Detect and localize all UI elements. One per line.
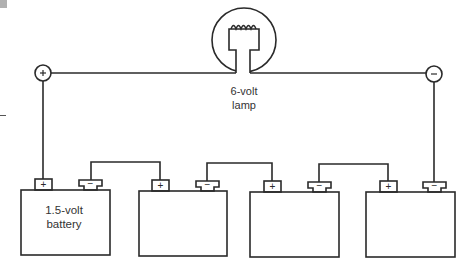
lamp-icon <box>212 8 276 73</box>
lamp-label: 6-volt lamp <box>214 84 274 112</box>
lamp-label-line2: lamp <box>214 98 274 112</box>
wire-b3-b4 <box>319 164 388 182</box>
battery-label-line2: battery <box>36 217 92 231</box>
battery-3 <box>250 181 339 257</box>
circuit-diagram: + + + + − − − − <box>0 0 476 274</box>
corner-mark <box>0 0 7 8</box>
svg-text:+: + <box>41 179 47 190</box>
svg-text:+: + <box>270 181 276 192</box>
svg-text:−: − <box>432 180 438 191</box>
battery-label-line1: 1.5-volt <box>36 203 92 217</box>
wire-b1-b2 <box>91 162 160 180</box>
svg-text:−: − <box>88 178 94 189</box>
battery-label: 1.5-volt battery <box>36 203 92 231</box>
svg-text:−: − <box>317 180 323 191</box>
lamp-label-line1: 6-volt <box>214 84 274 98</box>
svg-text:−: − <box>205 179 211 190</box>
svg-text:+: + <box>158 180 164 191</box>
battery-4 <box>366 181 455 257</box>
wire-b2-b3 <box>207 163 272 181</box>
battery-2 <box>139 180 227 256</box>
svg-text:+: + <box>386 181 392 192</box>
